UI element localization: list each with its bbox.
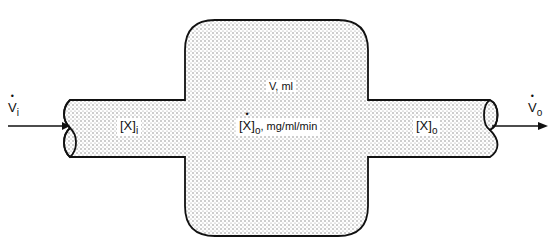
outflow-symbol: V	[528, 100, 537, 115]
inlet-sub: i	[136, 125, 138, 136]
outlet-symbol: [X]	[416, 118, 432, 133]
outflow-arrowhead	[538, 122, 548, 130]
inflow-symbol: V	[8, 100, 17, 115]
rate-units: , mg/ml/min	[260, 120, 317, 132]
outlet-concentration-label: [X]o	[413, 118, 440, 136]
outflow-sub: o	[537, 107, 543, 118]
inlet-concentration-label: [X]i	[117, 118, 141, 136]
rate-symbol: [X]	[239, 118, 255, 133]
inflow-sub: i	[17, 107, 19, 118]
inflow-label: Vi	[8, 100, 19, 118]
outflow-label: Vo	[528, 100, 542, 118]
volume-label: V, ml	[266, 80, 296, 92]
rate-label: [X]o, mg/ml/min	[236, 118, 320, 136]
inlet-symbol: [X]	[120, 118, 136, 133]
outlet-sub: o	[432, 125, 438, 136]
